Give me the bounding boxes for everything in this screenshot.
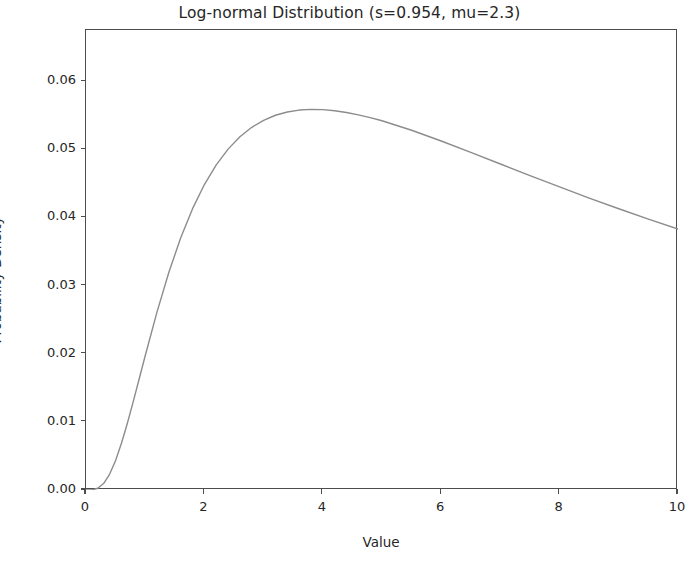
plot-area xyxy=(85,29,677,489)
y-axis-tick-label: 0.04 xyxy=(6,207,76,225)
y-axis-label: Probability Density xyxy=(0,180,4,380)
y-axis-tick-label: 0.02 xyxy=(6,344,76,362)
x-axis-tick-mark xyxy=(321,489,322,494)
y-axis-tick-label: 0.06 xyxy=(6,71,76,89)
y-axis-tick-label: 0.01 xyxy=(6,412,76,430)
x-axis-tick-label: 6 xyxy=(400,498,480,516)
y-axis-tick-label: 0.05 xyxy=(6,139,76,157)
lognormal-curve xyxy=(86,30,678,490)
chart-title: Log-normal Distribution (s=0.954, mu=2.3… xyxy=(0,4,699,23)
chart-figure: Log-normal Distribution (s=0.954, mu=2.3… xyxy=(0,0,699,566)
x-axis-tick-label: 4 xyxy=(282,498,362,516)
y-axis-tick-mark xyxy=(81,148,86,149)
y-axis-tick-mark xyxy=(81,80,86,81)
y-axis-tick-mark xyxy=(81,284,86,285)
y-axis-tick-label: 0.00 xyxy=(6,480,76,498)
x-axis-tick-mark xyxy=(676,489,677,494)
x-axis-label: Value xyxy=(85,534,677,550)
x-axis-tick-label: 2 xyxy=(163,498,243,516)
y-axis-tick-label: 0.03 xyxy=(6,276,76,294)
x-axis-tick-label: 10 xyxy=(637,498,699,516)
x-axis-tick-mark xyxy=(558,489,559,494)
y-axis-tick-mark xyxy=(81,216,86,217)
x-axis-tick-label: 0 xyxy=(45,498,125,516)
y-axis-tick-mark xyxy=(81,420,86,421)
x-axis-tick-mark xyxy=(84,489,85,494)
x-axis-tick-mark xyxy=(203,489,204,494)
x-axis-tick-mark xyxy=(440,489,441,494)
y-axis-tick-mark xyxy=(81,352,86,353)
x-axis-tick-label: 8 xyxy=(519,498,599,516)
